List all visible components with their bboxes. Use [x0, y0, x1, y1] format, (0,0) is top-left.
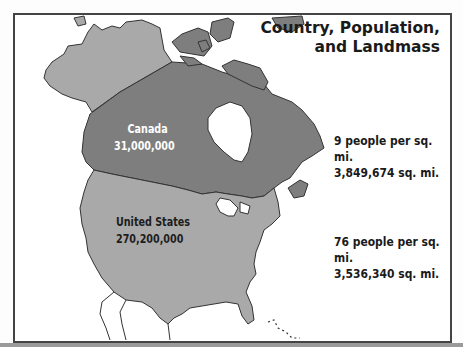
canada-area: 3,849,674 sq. mi. — [334, 165, 445, 181]
canada-density: 9 people per sq. mi. — [334, 133, 445, 165]
us-stats: 76 people per sq. mi. 3,536,340 sq. mi. — [334, 234, 445, 282]
title-line-1: Country, Population, — [260, 19, 440, 38]
mexico-coastline — [100, 292, 114, 340]
map-title: Country, Population, and Landmass — [260, 19, 440, 57]
us-name: United States — [116, 213, 190, 230]
bottom-bar — [0, 343, 463, 347]
us-density: 76 people per sq. mi. — [334, 234, 445, 266]
title-line-2: and Landmass — [260, 38, 440, 57]
canada-population: 31,000,000 — [114, 137, 175, 154]
us-population: 270,200,000 — [116, 230, 190, 247]
canada-label: Canada 31,000,000 — [114, 120, 175, 154]
us-area: 3,536,340 sq. mi. — [334, 266, 445, 282]
canada-name: Canada — [114, 120, 175, 137]
canada-stats: 9 people per sq. mi. 3,849,674 sq. mi. — [334, 133, 445, 181]
united-states-label: United States 270,200,000 — [116, 213, 190, 247]
